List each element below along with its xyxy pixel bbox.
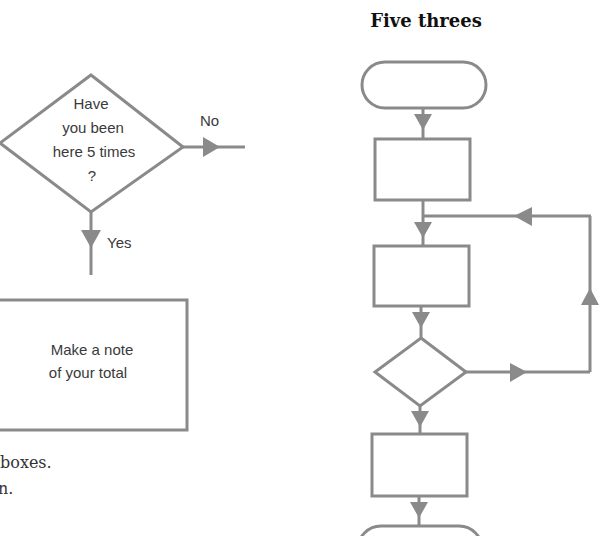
- caption-fragment-1: boxes.: [0, 453, 52, 472]
- right-arrow-icon: [510, 363, 527, 382]
- end-terminator: [358, 526, 482, 536]
- yes-label: Yes: [107, 234, 131, 251]
- make-note-line1: Make a note: [51, 341, 134, 358]
- yes-arrow-icon: [81, 230, 101, 248]
- right-flowchart: Five threes: [358, 10, 599, 536]
- down-arrow-icon: [410, 502, 428, 518]
- no-arrow-icon: [203, 137, 220, 157]
- no-label: No: [200, 112, 219, 129]
- process-box-2: [374, 246, 469, 306]
- left-flowchart: Have you been here 5 times ? No Yes Make…: [0, 75, 245, 498]
- decision-diamond-2: [375, 338, 466, 406]
- down-arrow-icon: [411, 411, 429, 427]
- decision-text-line2: you been: [62, 119, 124, 136]
- decision-text-line4: ?: [88, 167, 96, 184]
- up-arrow-icon: [581, 288, 599, 305]
- flowchart-title: Five threes: [370, 10, 482, 31]
- start-terminator: [362, 62, 486, 108]
- decision-text-line1: Have: [73, 95, 108, 112]
- decision-text-line3: here 5 times: [53, 143, 136, 160]
- process-box-1: [375, 139, 470, 200]
- process-box-3: [372, 434, 467, 496]
- down-arrow-icon: [414, 114, 432, 130]
- caption-fragment-2: n.: [0, 479, 13, 498]
- down-arrow-icon: [412, 312, 430, 328]
- make-note-line2: of your total: [49, 364, 127, 381]
- flowchart-canvas: Have you been here 5 times ? No Yes Make…: [0, 0, 599, 536]
- down-arrow-icon: [414, 222, 432, 238]
- left-arrow-icon: [514, 207, 532, 226]
